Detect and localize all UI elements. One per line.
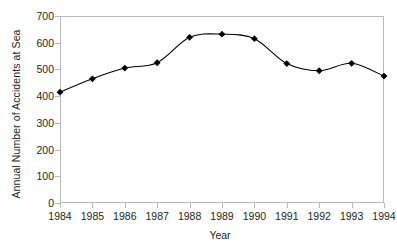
x-axis-tick-mark <box>125 203 126 208</box>
x-axis-title: Year <box>55 229 385 241</box>
x-axis-tick-mark <box>352 203 353 208</box>
x-axis-tick-mark <box>92 203 93 208</box>
x-axis-tick-mark <box>157 203 158 208</box>
data-point-marker <box>57 89 64 96</box>
x-axis-tick-mark <box>60 203 61 208</box>
data-point-marker <box>89 75 96 82</box>
chart-container: Annual Number of Accidents at Sea 010020… <box>0 0 397 251</box>
data-point-marker <box>186 34 193 41</box>
x-axis-tick-mark <box>190 203 191 208</box>
data-point-marker <box>251 35 258 42</box>
x-axis-tick-mark <box>254 203 255 208</box>
series-line-accidents <box>60 34 384 92</box>
data-point-marker <box>154 59 161 66</box>
data-point-marker <box>219 31 226 38</box>
x-axis-tick-mark <box>384 203 385 208</box>
data-point-marker <box>316 67 323 74</box>
data-point-marker <box>121 65 128 72</box>
data-point-marker <box>283 60 290 67</box>
data-point-marker <box>381 73 388 80</box>
x-axis-tick-mark <box>319 203 320 208</box>
x-axis-tick-label: 1994 <box>364 210 397 222</box>
x-axis-tick-mark <box>222 203 223 208</box>
x-axis-tick-mark <box>287 203 288 208</box>
data-markers <box>57 31 388 96</box>
data-point-marker <box>348 60 355 67</box>
